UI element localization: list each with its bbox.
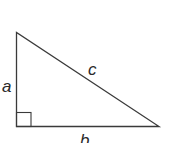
right-triangle-diagram: a c b: [0, 0, 170, 143]
label-a: a: [2, 77, 11, 96]
label-c: c: [88, 60, 97, 79]
triangle-outline: [17, 33, 160, 127]
right-angle-marker-icon: [17, 113, 32, 127]
label-b: b: [80, 131, 89, 143]
